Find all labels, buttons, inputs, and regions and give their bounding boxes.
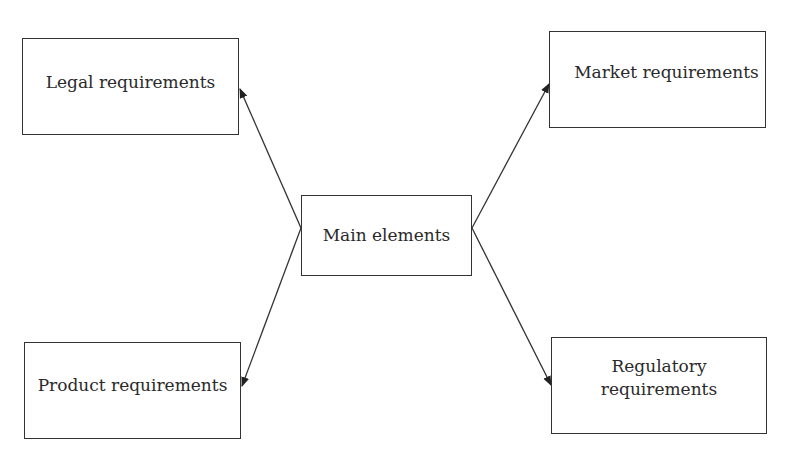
arrow-to-market: [472, 84, 549, 228]
node-market-requirements: Market requirements: [549, 31, 766, 128]
node-label: Market requirements: [574, 61, 759, 84]
center-label: Main elements: [323, 224, 451, 247]
node-label: Regulatory requirements: [601, 355, 717, 401]
arrow-to-product: [242, 228, 301, 386]
arrow-to-legal: [240, 89, 301, 228]
node-regulatory-requirements: Regulatory requirements: [551, 337, 767, 434]
arrow-to-regulatory: [472, 228, 551, 385]
node-label: Legal requirements: [46, 71, 216, 94]
node-product-requirements: Product requirements: [24, 342, 241, 439]
node-main-elements: Main elements: [301, 195, 472, 276]
node-label: Product requirements: [38, 374, 228, 397]
node-legal-requirements: Legal requirements: [22, 38, 239, 135]
